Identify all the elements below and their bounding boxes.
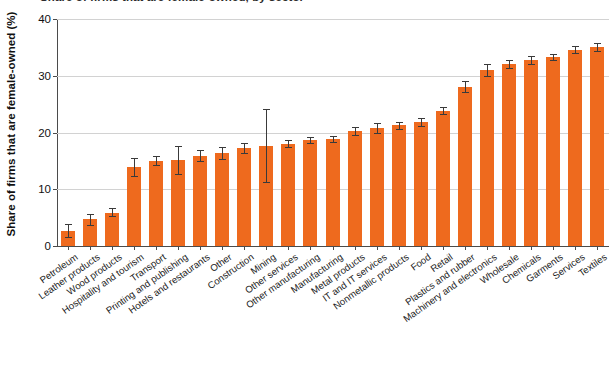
y-tick-mark xyxy=(53,19,57,20)
x-axis-label: Mining xyxy=(249,252,278,276)
x-axis-label: Printing and publishing xyxy=(104,252,189,316)
x-axis-label: Hotels and restaurants xyxy=(127,252,212,315)
x-axis-label: Machinery and electronics xyxy=(402,252,499,324)
x-axis-label: Hospitality and tourism xyxy=(60,252,145,316)
x-axis-label: Nonmetallic products xyxy=(331,252,410,311)
x-axis-label: Transport xyxy=(129,252,168,283)
x-axis-label: Services xyxy=(551,252,587,281)
y-tick-label: 30 xyxy=(25,71,51,83)
y-tick-mark xyxy=(53,246,57,247)
x-axis-label: Food xyxy=(409,252,432,272)
x-axis-label: Wholesale xyxy=(478,252,520,286)
x-axis-label: IT and IT services xyxy=(320,252,388,303)
x-axis-label: Wood products xyxy=(65,252,123,297)
x-axis-label: Leather products xyxy=(37,252,101,301)
y-tick-label: 40 xyxy=(25,14,51,26)
y-tick-mark xyxy=(53,189,57,190)
y-tick-label: 0 xyxy=(25,241,51,253)
x-axis-label: Construction xyxy=(206,252,256,291)
y-axis-title: Share of firms that are female-owned (%) xyxy=(0,0,22,248)
x-axis-label: Other services xyxy=(244,252,300,295)
y-tick-layer: 010203040 xyxy=(57,19,609,247)
x-axis-label: Manufacturing xyxy=(289,252,344,295)
y-axis-title-text: Share of firms that are female-owned (%) xyxy=(5,11,17,236)
x-axis-label: Other manufacturing xyxy=(245,252,322,310)
y-tick-mark xyxy=(53,76,57,77)
x-axis-label: Textiles xyxy=(577,252,609,278)
x-axis-label: Other xyxy=(208,252,233,274)
y-tick-label: 10 xyxy=(25,184,51,196)
y-tick-mark xyxy=(53,133,57,134)
x-axis-label: Retail xyxy=(429,252,455,274)
x-axis-label: Petroleum xyxy=(38,252,79,285)
chart-figure: Share of firms that are female-owned, by… xyxy=(0,0,613,367)
x-axis-label: Garments xyxy=(525,252,565,284)
chart-title: Share of firms that are female-owned, by… xyxy=(40,0,460,5)
x-axis-label: Metal products xyxy=(309,252,366,296)
y-tick-label: 20 xyxy=(25,128,51,140)
x-axis-label: Plastics and rubber xyxy=(404,252,477,307)
x-axis-label: Chemicals xyxy=(501,252,543,286)
